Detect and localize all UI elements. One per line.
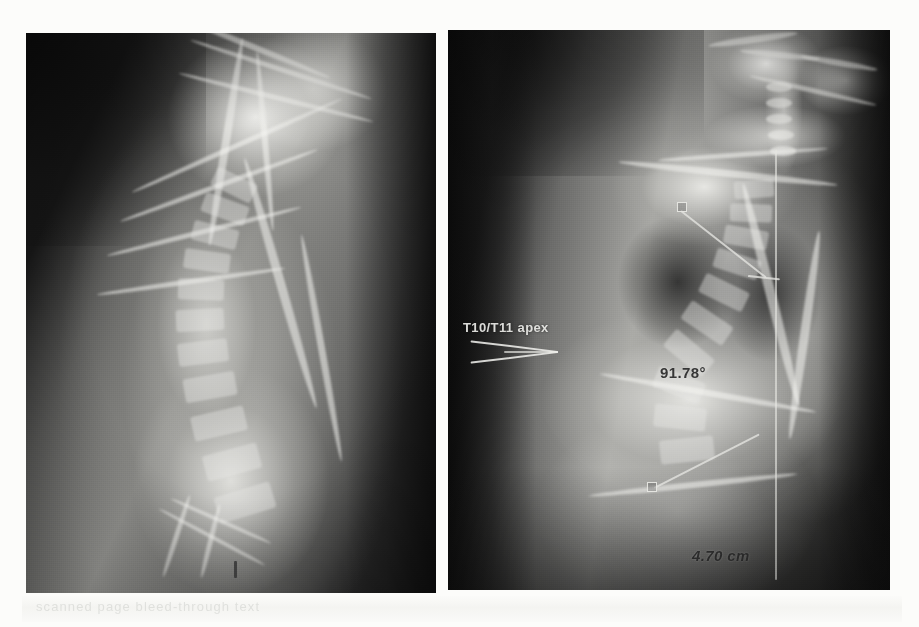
apex-pointer-arrow: [470, 337, 560, 365]
arrow-stroke-axis: [504, 351, 558, 353]
screenshot-canvas: 91.78° 4.70 cm T10/T11 apex scanned page…: [0, 0, 919, 627]
lateral-full-spine-radiograph[interactable]: 91.78° 4.70 cm: [448, 30, 890, 590]
film-grain: [448, 30, 890, 590]
lateral-thoracic-radiograph[interactable]: [26, 33, 436, 593]
page-bleed-through-strip: scanned page bleed-through text: [22, 596, 902, 622]
film-grain: [26, 33, 436, 593]
ghost-caption-text: scanned page bleed-through text: [36, 600, 260, 614]
apex-label: T10/T11 apex: [463, 320, 549, 335]
arrow-stroke-upper: [471, 351, 559, 363]
